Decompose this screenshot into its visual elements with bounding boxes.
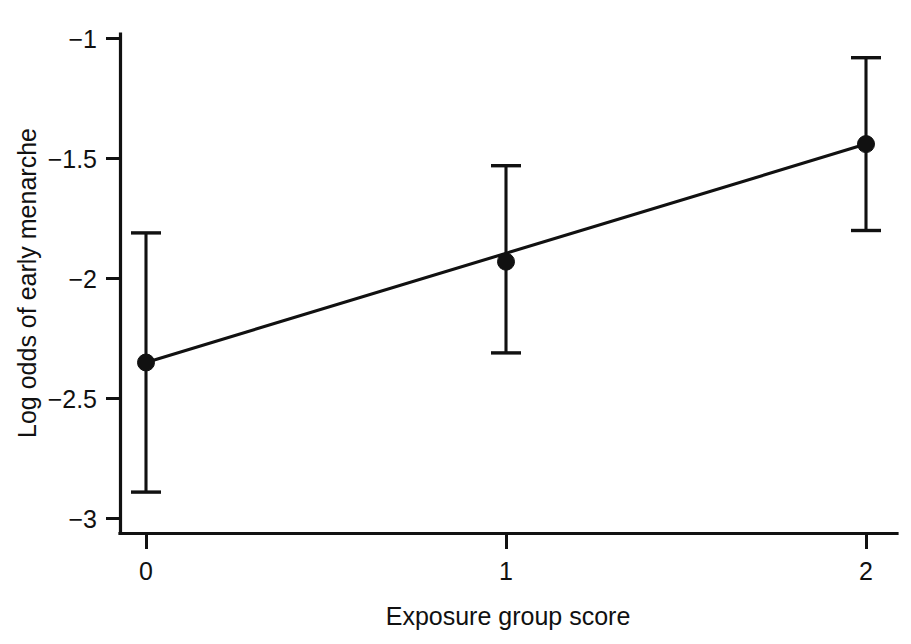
data-series-layer [131, 58, 881, 492]
data-point-group-1 [491, 166, 521, 353]
data-point-group-0 [131, 233, 161, 492]
y-tick-label-3: −2.5 [48, 385, 97, 413]
x-axis-title: Exposure group score [386, 602, 631, 630]
x-axis [120, 534, 897, 550]
y-tick-label-1: −1.5 [48, 145, 97, 173]
y-tick-label-2: −2 [68, 265, 97, 293]
plot-canvas: −1 −1.5 −2 −2.5 −3 0 1 2 Exposure group … [0, 0, 911, 644]
y-tick-label-4: −3 [68, 505, 97, 533]
data-point-marker-1 [498, 253, 515, 270]
x-tick-label-0: 0 [139, 557, 153, 585]
y-axis [106, 34, 121, 533]
x-tick-label-1: 1 [499, 557, 513, 585]
y-tick-label-0: −1 [68, 25, 97, 53]
data-point-marker-2 [858, 136, 875, 153]
data-point-group-2 [851, 58, 881, 231]
x-tick-label-2: 2 [859, 557, 873, 585]
data-point-marker-0 [138, 354, 155, 371]
y-axis-title: Log odds of early menarche [13, 128, 41, 438]
chart-figure: −1 −1.5 −2 −2.5 −3 0 1 2 Exposure group … [0, 0, 911, 644]
